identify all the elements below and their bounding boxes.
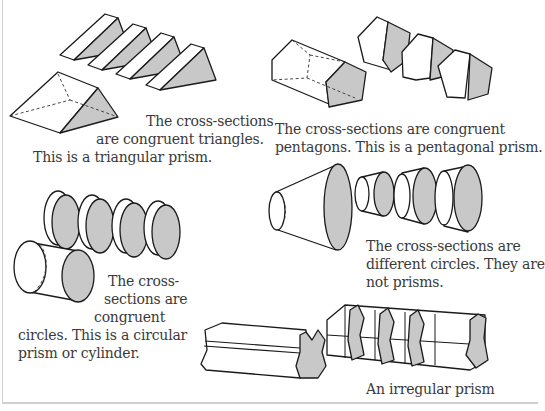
cylinder-icon	[14, 241, 94, 302]
triangular-prism-icon	[10, 72, 118, 133]
cone-caption-line-1: The cross-sections are	[366, 237, 521, 255]
irregular-prism-slices-icon	[327, 305, 488, 370]
pentagonal-prism-slices-icon	[358, 17, 492, 100]
pentagonal-caption-line-2: pentagons. This is a pentagonal prism.	[275, 138, 542, 156]
cylinder-caption-line-4: circles. This is a circular	[18, 326, 187, 344]
cylinder-caption-line-5: prism or cylinder.	[18, 344, 140, 362]
pentagonal-caption-line-1: The cross-sections are congruent	[275, 120, 505, 138]
cone-caption-line-3: not prisms.	[366, 273, 444, 291]
cone-caption-line-2: different circles. They are	[366, 255, 545, 273]
cylinder-caption-line-1: The cross-	[108, 272, 179, 290]
truncated-cone-icon	[269, 164, 352, 250]
irregular-caption: An irregular prism	[366, 380, 495, 398]
pentagonal-prism-icon	[272, 40, 366, 107]
irregular-prism-icon	[201, 323, 326, 378]
cylinder-caption-line-2: sections are	[104, 290, 187, 308]
triangular-prism-slices-icon	[60, 14, 216, 90]
cylinder-caption-line-3: congruent	[94, 308, 165, 326]
triangular-caption-line-2: are congruent triangles.	[96, 130, 264, 148]
triangular-caption-line-3: This is a triangular prism.	[33, 148, 212, 166]
cone-slices-icon	[355, 165, 482, 232]
triangular-caption-line-1: The cross-sections	[146, 112, 274, 130]
